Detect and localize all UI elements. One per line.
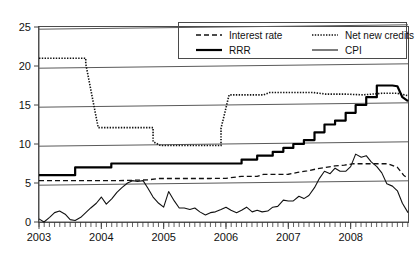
gridline-10 — [39, 142, 408, 146]
legend-label-interest-rate: Interest rate — [229, 30, 283, 41]
chart-figure: 0510152025 200320042005200620072008 Inte… — [0, 0, 418, 258]
legend-label-rrr: RRR — [229, 45, 251, 56]
y-tick-label-15: 15 — [19, 99, 31, 111]
x-tick-label-2006: 2006 — [214, 231, 238, 243]
x-axis: 200320042005200620072008 — [27, 222, 408, 243]
line-chart: 0510152025 200320042005200620072008 Inte… — [0, 0, 418, 258]
y-tick-label-20: 20 — [19, 60, 31, 72]
y-tick-label-0: 0 — [25, 216, 31, 228]
x-tick-label-2008: 2008 — [338, 231, 362, 243]
y-axis: 0510152025 — [19, 21, 39, 228]
y-tick-label-25: 25 — [19, 21, 31, 33]
series-net-new-credits — [39, 58, 408, 145]
legend-label-net-new-credits: Net new credits — [345, 30, 414, 41]
series-interest-rate — [39, 164, 408, 181]
legend-label-cpi: CPI — [345, 45, 362, 56]
gridline-20 — [39, 64, 408, 68]
x-tick-label-2005: 2005 — [151, 231, 175, 243]
y-tick-label-5: 5 — [25, 177, 31, 189]
chart-legend: Interest rateNet new creditsRRRCPI — [179, 23, 414, 59]
y-tick-label-10: 10 — [19, 138, 31, 150]
series-group — [39, 58, 408, 222]
x-tick-label-2004: 2004 — [89, 231, 113, 243]
gridline-5 — [39, 181, 408, 185]
x-tick-label-2007: 2007 — [276, 231, 300, 243]
x-tick-label-2003: 2003 — [27, 231, 51, 243]
